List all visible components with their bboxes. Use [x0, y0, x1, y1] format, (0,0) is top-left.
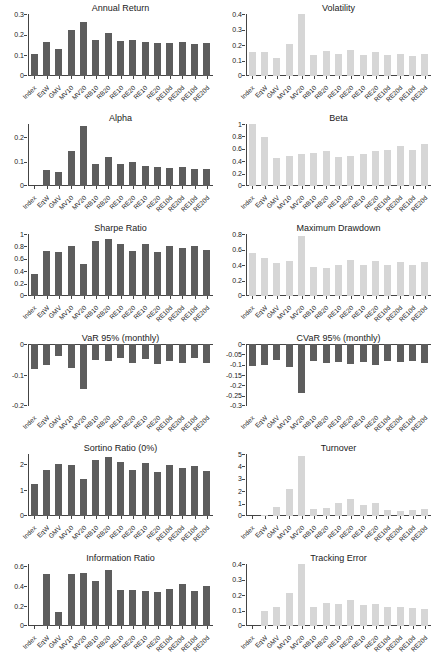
bar-mv20 — [298, 154, 305, 186]
plot-area-turnover: 012345IndexEqWGMVMV10MV20RB10RB20RE10RE2… — [246, 454, 431, 516]
y-tick-label: 0.4 — [216, 561, 242, 569]
x-tick — [96, 296, 97, 299]
x-tick — [339, 186, 340, 189]
y-tick — [242, 625, 245, 626]
bar-re10d — [191, 246, 198, 296]
y-tick-label: 0 — [0, 72, 24, 80]
x-tick — [425, 296, 426, 299]
bar-rb20 — [105, 33, 112, 76]
y-tick — [242, 396, 245, 397]
y-tick — [24, 234, 27, 235]
x-tick — [265, 626, 266, 629]
y-tick-label: 0.1 — [216, 57, 242, 65]
bar-eqw — [261, 344, 268, 365]
bar-re20 — [154, 344, 161, 364]
bar-mv20 — [80, 22, 87, 76]
y-tick — [242, 595, 245, 596]
y-axis-line — [246, 124, 247, 186]
x-tick — [59, 626, 60, 629]
x-tick — [252, 626, 253, 629]
bar-mv20 — [298, 564, 305, 626]
x-tick — [351, 76, 352, 79]
x-tick — [413, 186, 414, 189]
bar-mv10 — [286, 593, 293, 626]
bar-re10 — [142, 244, 149, 296]
y-tick — [24, 75, 27, 76]
bar-re10d — [191, 466, 198, 516]
bar-rb20 — [323, 268, 330, 296]
bar-re10d — [191, 169, 198, 186]
bar-mv20 — [80, 264, 87, 296]
bar-re10d — [409, 344, 416, 361]
x-tick — [182, 626, 183, 629]
bar-re10d — [384, 607, 391, 626]
bar-re20 — [129, 162, 136, 186]
y-tick — [242, 61, 245, 62]
y-tick-label: 1 — [0, 487, 24, 495]
x-tick — [170, 626, 171, 629]
chart-title-sharpe-ratio: Sharpe Ratio — [28, 223, 213, 233]
y-tick-label: 0 — [216, 292, 242, 300]
bar-re10d — [166, 589, 173, 626]
x-tick — [252, 186, 253, 189]
bar-re10 — [335, 503, 342, 516]
bar-re20 — [154, 592, 161, 626]
x-tick — [145, 516, 146, 519]
y-tick — [242, 491, 245, 492]
y-tick-label: 0.6 — [216, 145, 242, 153]
y-tick-label: 0.8 — [0, 243, 24, 251]
chart-information-ratio: Information Ratio 00.20.40.6IndexEqWGMVM… — [0, 550, 218, 660]
y-tick — [24, 284, 27, 285]
y-tick-label: 0.8 — [216, 231, 242, 239]
bar-re20d — [397, 146, 404, 186]
chart-turnover: Turnover 012345IndexEqWGMVMV10MV20RB10RB… — [218, 440, 437, 550]
y-tick-label: 1 — [216, 121, 242, 129]
bar-re10 — [335, 265, 342, 296]
bar-re20 — [129, 344, 136, 363]
x-tick — [302, 516, 303, 519]
bar-re10d — [191, 591, 198, 626]
chart-sharpe-ratio: Sharpe Ratio 00.20.40.60.81IndexEqWGMVMV… — [0, 220, 218, 330]
x-tick — [289, 186, 290, 189]
x-tick — [133, 186, 134, 189]
y-tick-label: 0.2 — [216, 592, 242, 600]
y-tick — [242, 375, 245, 376]
y-axis-line — [246, 454, 247, 516]
chart-title-annual-return: Annual Return — [28, 3, 213, 13]
bar-re10d — [166, 246, 173, 296]
bar-re20d — [421, 54, 428, 76]
bar-re20 — [129, 251, 136, 296]
x-tick — [314, 76, 315, 79]
x-tick — [265, 76, 266, 79]
y-tick-label: -0.1 — [216, 361, 242, 369]
bar-re20 — [372, 604, 379, 626]
bar-rb20 — [323, 603, 330, 626]
y-tick-label: 0.3 — [216, 576, 242, 584]
y-tick-label: 3 — [216, 475, 242, 483]
x-tick — [339, 516, 340, 519]
x-tick — [363, 76, 364, 79]
y-tick-label: 5 — [216, 451, 242, 459]
x-tick — [413, 516, 414, 519]
x-tick — [158, 76, 159, 79]
x-tick — [195, 296, 196, 299]
bar-re10d — [384, 344, 391, 361]
bar-re10 — [360, 154, 367, 186]
chart-var-95-monthly: VaR 95% (monthly) 0-0.1-0.2IndexEqWGMVMV… — [0, 330, 218, 440]
y-tick-label: 0 — [0, 292, 24, 300]
x-tick — [326, 516, 327, 519]
bar-mv20 — [80, 479, 87, 516]
y-tick-label: 0.4 — [216, 262, 242, 270]
x-tick — [289, 296, 290, 299]
y-tick — [242, 564, 245, 565]
bar-eqw — [261, 52, 268, 76]
x-tick — [71, 296, 72, 299]
x-tick — [413, 76, 414, 79]
y-tick — [24, 162, 27, 163]
x-tick — [145, 626, 146, 629]
x-tick — [302, 76, 303, 79]
x-tick — [108, 76, 109, 79]
chart-cvar-95-monthly: CVaR 95% (monthly) 0-0.05-0.1-0.15-0.2-0… — [218, 330, 437, 440]
bar-re20d — [421, 344, 428, 363]
chart-grid: Annual Return 00.10.20.3IndexEqWGMVMV10M… — [0, 0, 437, 660]
